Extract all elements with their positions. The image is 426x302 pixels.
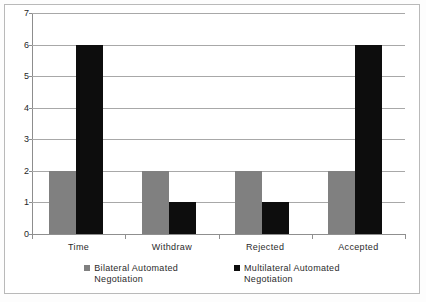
x-tick-mark bbox=[312, 235, 313, 239]
x-tick-mark bbox=[219, 235, 220, 239]
bar-accepted-series-0 bbox=[328, 171, 355, 234]
bar-group-time bbox=[49, 13, 103, 234]
x-tick-label-rejected: Rejected bbox=[246, 242, 284, 252]
bar-group-withdraw bbox=[142, 13, 196, 234]
bar-group-rejected bbox=[235, 13, 289, 234]
x-tick-mark bbox=[405, 235, 406, 239]
legend-label-1: Multilateral AutomatedNegotiation bbox=[244, 263, 340, 285]
bar-withdraw-series-1 bbox=[169, 202, 196, 234]
bar-rejected-series-0 bbox=[235, 171, 262, 234]
bar-rejected-series-1 bbox=[262, 202, 289, 234]
x-tick-label-withdraw: Withdraw bbox=[152, 242, 192, 252]
legend-item-1[interactable]: Multilateral AutomatedNegotiation bbox=[234, 263, 340, 285]
legend-swatch-icon-0 bbox=[84, 265, 90, 271]
legend-item-0[interactable]: Bilateral AutomatedNegotiation bbox=[84, 263, 178, 285]
x-tick-label-time: Time bbox=[68, 242, 89, 252]
bar-time-series-0 bbox=[49, 171, 76, 234]
x-tick-label-accepted: Accepted bbox=[338, 242, 378, 252]
bar-accepted-series-1 bbox=[355, 45, 382, 234]
chart-figure: 7 6 5 4 3 2 1 0 TimeWithdrawRejectedAcce… bbox=[4, 4, 420, 294]
bar-time-series-1 bbox=[76, 45, 103, 234]
bar-withdraw-series-0 bbox=[142, 171, 169, 234]
chart-legend: Bilateral AutomatedNegotiationMultilater… bbox=[5, 263, 419, 285]
plot-area bbox=[32, 13, 405, 234]
x-tick-mark bbox=[125, 235, 126, 239]
legend-swatch-icon-1 bbox=[234, 265, 240, 271]
legend-label-0: Bilateral AutomatedNegotiation bbox=[94, 263, 178, 285]
x-tick-mark bbox=[32, 235, 33, 239]
bar-group-accepted bbox=[328, 13, 382, 234]
